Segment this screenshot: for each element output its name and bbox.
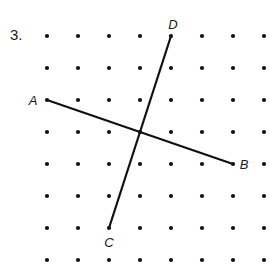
grid-dot [76,194,80,198]
grid-dots [45,34,266,262]
grid-dot [200,258,204,262]
point-label-a: A [28,93,38,108]
grid-dot [107,98,111,102]
grid-dot [138,162,142,166]
grid-dot [231,34,235,38]
grid-dot [169,226,173,230]
grid-dot [138,66,142,70]
grid-dot [200,162,204,166]
grid-dot [200,66,204,70]
grid-dot [138,258,142,262]
line-segments [47,36,233,228]
grid-dot [169,98,173,102]
grid-dot [200,194,204,198]
dot-grid-diagram: 3. ABCD [0,0,272,270]
grid-dot [45,258,49,262]
grid-dot [262,162,266,166]
point-label-b: B [240,157,249,172]
grid-dot [262,66,266,70]
grid-dot [262,34,266,38]
grid-dot [45,66,49,70]
point-label-c: C [104,235,114,250]
grid-dot [107,258,111,262]
grid-dot [262,130,266,134]
grid-dot [76,66,80,70]
grid-dot [262,258,266,262]
grid-dot [200,98,204,102]
grid-dot [107,34,111,38]
grid-dot [107,66,111,70]
grid-dot [231,66,235,70]
grid-dot [107,194,111,198]
grid-dot [262,98,266,102]
grid-dot [169,194,173,198]
grid-dot [45,226,49,230]
grid-dot [262,226,266,230]
grid-dot [169,162,173,166]
grid-dot [200,34,204,38]
grid-dot [76,34,80,38]
grid-dot [169,258,173,262]
grid-dot [45,162,49,166]
grid-dot [76,130,80,134]
grid-dot [107,162,111,166]
grid-dot [45,34,49,38]
grid-dot [231,130,235,134]
grid-dot [138,226,142,230]
grid-dot [200,226,204,230]
grid-dot [76,98,80,102]
grid-dot [107,130,111,134]
grid-dot [231,226,235,230]
grid-dot [76,258,80,262]
grid-dot [45,194,49,198]
grid-dot [262,194,266,198]
grid-dot [138,194,142,198]
grid-dot [200,130,204,134]
grid-dot [169,66,173,70]
point-label-d: D [168,17,177,32]
point-labels: ABCD [28,17,249,250]
grid-dot [45,130,49,134]
grid-dot [169,130,173,134]
grid-dot [76,226,80,230]
grid-dot [231,98,235,102]
problem-number: 3. [10,26,23,43]
grid-dot [76,162,80,166]
grid-dot [138,34,142,38]
grid-dot [231,194,235,198]
grid-dot [231,258,235,262]
grid-dot [138,98,142,102]
segment-cd [109,36,171,228]
